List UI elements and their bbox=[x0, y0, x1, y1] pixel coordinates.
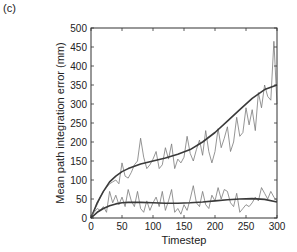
x-tick-label: 0 bbox=[88, 221, 94, 232]
y-axis-title: Mean path integration error (mm) bbox=[54, 42, 66, 203]
y-tick-label: 300 bbox=[70, 99, 87, 110]
y-tick-label: 0 bbox=[81, 213, 87, 224]
y-tick-label: 200 bbox=[70, 137, 87, 148]
line-chart: 050100150200250300 050100150200250300350… bbox=[0, 0, 297, 252]
x-tick-label: 200 bbox=[207, 221, 224, 232]
y-tick-label: 400 bbox=[70, 61, 87, 72]
x-tick-label: 150 bbox=[176, 221, 193, 232]
x-tick-label: 100 bbox=[145, 221, 162, 232]
y-tick-label: 50 bbox=[76, 194, 88, 205]
x-tick-label: 50 bbox=[116, 221, 128, 232]
x-tick-label: 250 bbox=[238, 221, 255, 232]
y-tick-label: 450 bbox=[70, 42, 87, 53]
x-axis-title: Timestep bbox=[162, 234, 207, 246]
series-upper-raw bbox=[91, 41, 277, 216]
y-tick-label: 250 bbox=[70, 118, 87, 129]
y-tick-label: 150 bbox=[70, 156, 87, 167]
plot-lines bbox=[91, 41, 277, 218]
y-axis-ticks: 050100150200250300350400450500 bbox=[70, 23, 277, 224]
y-tick-label: 100 bbox=[70, 175, 87, 186]
series-lower-raw bbox=[91, 186, 277, 216]
x-tick-label: 300 bbox=[269, 221, 286, 232]
y-tick-label: 500 bbox=[70, 23, 87, 34]
y-tick-label: 350 bbox=[70, 80, 87, 91]
